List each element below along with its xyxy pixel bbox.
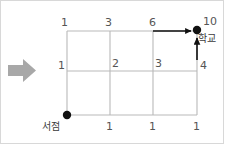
bottom-count-2: 1 [193, 121, 200, 132]
grid-lines [67, 31, 197, 115]
lattice-path-figure: 1 3 6 10 1 2 3 4 1 1 1 서점 학교 [0, 0, 225, 145]
bottom-count-1: 1 [149, 121, 156, 132]
school-count: 10 [203, 16, 217, 27]
middle-count-2: 3 [155, 58, 162, 69]
top-count-2: 6 [149, 17, 156, 28]
middle-count-3: 4 [200, 60, 207, 71]
bottom-count-0: 1 [106, 121, 113, 132]
school-label: 학교 [198, 34, 216, 44]
bookstore-label: 서점 [42, 122, 60, 132]
middle-count-0: 1 [58, 60, 65, 71]
top-count-0: 1 [61, 17, 68, 28]
cue-arrow-icon [8, 59, 36, 82]
bookstore-node [63, 111, 71, 119]
top-count-1: 3 [105, 17, 112, 28]
middle-count-1: 2 [112, 58, 119, 69]
